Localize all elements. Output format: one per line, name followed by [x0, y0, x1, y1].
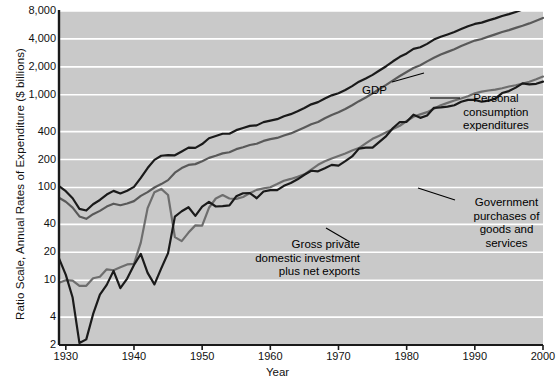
x-axis-title: Year: [0, 366, 555, 378]
x-tick-label-3: 1960: [240, 350, 300, 362]
y-tick-label-8: 1,000: [6, 89, 56, 100]
y-tick-label-4: 40: [6, 218, 56, 229]
y-tick-label-2: 10: [6, 274, 56, 285]
y-tick-label-3: 20: [6, 246, 56, 257]
x-tick-label-2: 1950: [172, 350, 232, 362]
annotation-personal-consumption: Personal consumption expenditures: [463, 92, 529, 133]
x-tick-label-1: 1940: [104, 350, 164, 362]
x-tick-label-7: 2000: [513, 350, 560, 362]
annotation-gross-private-investment: Gross private domestic investment plus n…: [255, 238, 360, 279]
x-tick-label-5: 1980: [377, 350, 437, 362]
x-tick-label-4: 1970: [308, 350, 368, 362]
y-tick-label-6: 200: [6, 154, 56, 165]
y-tick-label-10: 4,000: [6, 33, 56, 44]
annotation-gdp: GDP: [362, 84, 387, 98]
y-axis-tick-labels: 241020401002004001,0002,0004,0008,000: [4, 0, 56, 385]
y-tick-label-1: 4: [6, 311, 56, 322]
y-tick-label-0: 2: [6, 339, 56, 350]
annotation-government-purchases: Government purchases of goods and servic…: [458, 196, 555, 250]
y-tick-label-11: 8,000: [6, 5, 56, 16]
y-tick-label-9: 2,000: [6, 61, 56, 72]
y-tick-label-7: 400: [6, 126, 56, 137]
x-tick-label-6: 1990: [445, 350, 505, 362]
y-tick-label-5: 100: [6, 181, 56, 192]
x-tick-label-0: 1930: [36, 350, 96, 362]
